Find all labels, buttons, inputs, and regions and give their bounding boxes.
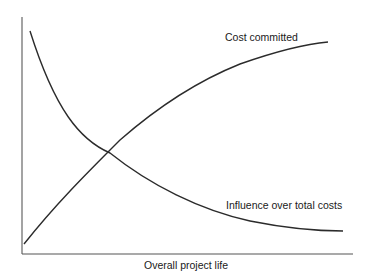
cost-committed-curve	[24, 42, 328, 244]
chart-canvas	[0, 0, 365, 279]
influence-label: Influence over total costs	[226, 200, 342, 211]
x-axis-label: Overall project life	[144, 260, 228, 271]
cost-committed-label: Cost committed	[225, 32, 298, 43]
